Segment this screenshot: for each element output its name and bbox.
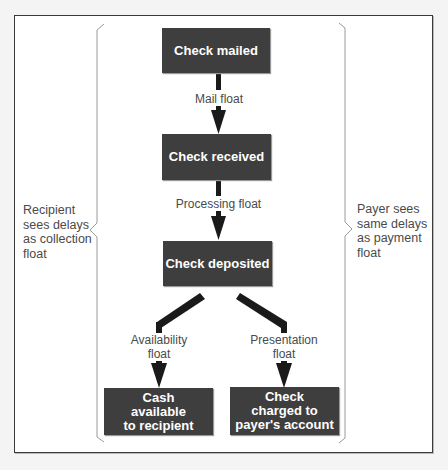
arrowhead-availability xyxy=(151,363,167,388)
edge-label-availability-float: Availability float xyxy=(124,333,194,361)
node-check-deposited: Check deposited xyxy=(163,241,272,286)
node-label: Check received xyxy=(169,150,264,164)
node-label: Check deposited xyxy=(165,257,269,271)
node-check-mailed: Check mailed xyxy=(162,28,270,73)
branch-left-diagonal xyxy=(157,293,205,328)
arrowhead-mail xyxy=(211,110,226,134)
edge-label-mail-float: Mail float xyxy=(184,92,254,106)
edge-label-processing-float: Processing float xyxy=(170,197,267,211)
arrow-shaft-processing xyxy=(216,180,221,196)
side-note-recipient: Recipient sees delays as collection floa… xyxy=(23,203,92,261)
node-label: Check charged to payer's account xyxy=(235,390,333,432)
branch-right-diagonal xyxy=(236,293,287,328)
edge-label-presentation-float: Presentation float xyxy=(245,333,323,361)
node-label: Check mailed xyxy=(174,44,258,58)
left-brace xyxy=(90,24,104,442)
arrow-shaft-mail xyxy=(216,74,221,90)
side-note-payer: Payer sees same delays as payment float xyxy=(357,202,427,260)
node-label: Cash available to recipient xyxy=(123,391,193,433)
node-cash-available: Cash available to recipient xyxy=(104,388,213,435)
arrowhead-presentation xyxy=(276,363,292,388)
right-brace xyxy=(339,23,352,443)
node-check-received: Check received xyxy=(162,134,271,180)
arrowhead-processing xyxy=(211,216,226,240)
node-check-charged: Check charged to payer's account xyxy=(230,387,339,435)
